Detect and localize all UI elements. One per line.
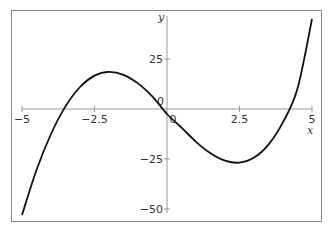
y-tick-label: −50 bbox=[140, 203, 163, 216]
chart: −5−2.502.55250−25−50xy bbox=[0, 0, 331, 232]
y-axis-label: y bbox=[157, 11, 165, 24]
x-tick-label: −2.5 bbox=[81, 113, 108, 126]
x-axis-label: x bbox=[307, 124, 314, 137]
x-tick-label: −5 bbox=[14, 113, 30, 126]
x-tick-label: 2.5 bbox=[231, 113, 249, 126]
y-tick-label: −25 bbox=[140, 153, 163, 166]
y-tick-label: 25 bbox=[149, 53, 163, 66]
